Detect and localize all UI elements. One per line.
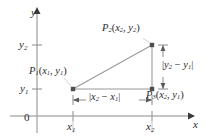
y-tick-label-y1: y1 — [20, 83, 28, 95]
dx-minus: − — [99, 91, 110, 102]
p1-leader-line — [64, 78, 71, 86]
point-p2-marker — [150, 43, 154, 47]
vertical-distance-label: |y2 − y1| — [162, 60, 193, 71]
dx-bar-close: | — [118, 91, 120, 102]
point-label-p3: P3(x2, y1) — [146, 90, 184, 101]
y-axis-label: y — [31, 7, 36, 18]
dy-bar-close: | — [191, 59, 193, 70]
p1-paren-close: ) — [63, 65, 67, 76]
segment-hypotenuse — [73, 45, 152, 89]
x-tick-label-x1: x1 — [67, 121, 75, 133]
distance-formula-figure: y x 0 y2 y1 x1 x2 P1(x1, y1) P2(x2, y2) … — [0, 0, 205, 139]
point-label-p1: P1(x1, y1) — [29, 66, 67, 77]
origin-label: 0 — [24, 112, 30, 123]
dy-minus: − — [172, 59, 183, 70]
p3-paren-close: ) — [180, 89, 184, 100]
y2-subscript: 2 — [24, 44, 27, 51]
x-tick-label-x2: x2 — [146, 121, 154, 133]
x-axis-label: x — [193, 119, 198, 130]
point-label-p2: P2(x2, y2) — [102, 23, 140, 34]
x2-subscript: 2 — [151, 126, 154, 133]
x1-subscript: 1 — [72, 126, 75, 133]
point-p1-marker — [71, 87, 75, 91]
p2-paren-close: ) — [136, 22, 140, 33]
y-tick-label-y2: y2 — [19, 39, 27, 51]
horizontal-distance-label: |x2 − x1| — [89, 92, 120, 103]
y1-subscript: 1 — [25, 88, 28, 95]
p2-leader-line — [143, 38, 150, 43]
